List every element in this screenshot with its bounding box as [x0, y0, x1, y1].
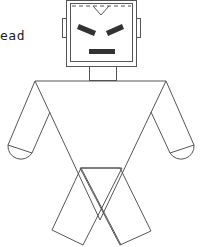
left-arm	[8, 81, 50, 159]
left-arm-inner	[32, 112, 50, 153]
left-ear	[63, 19, 67, 38]
neck	[90, 67, 117, 81]
left-hand-line	[8, 145, 32, 153]
right-eye	[106, 24, 124, 36]
left-leg-edge	[81, 168, 121, 245]
left-arm-outer	[8, 81, 35, 145]
head-chevron	[93, 6, 109, 15]
right-ear	[137, 19, 141, 38]
right-arm	[151, 81, 194, 159]
body-triangle	[35, 81, 166, 220]
robot-drawing	[0, 0, 200, 247]
head	[67, 1, 137, 67]
mouth	[89, 49, 115, 54]
right-hand-line	[170, 145, 194, 153]
head-box	[67, 1, 137, 67]
left-eye	[77, 24, 96, 36]
right-arm-inner	[151, 112, 170, 153]
robot-diagram: ead	[0, 0, 200, 247]
right-arm-outer	[166, 81, 194, 145]
